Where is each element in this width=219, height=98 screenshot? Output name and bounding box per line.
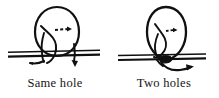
caption-same-hole: Same hole — [0, 76, 110, 91]
dashed-arrow-left-head — [67, 27, 72, 32]
dashed-arrow-right-head — [173, 28, 178, 32]
panel-right — [118, 7, 206, 70]
band-left-top-edge — [8, 50, 100, 52]
dashed-arrow-left — [55, 27, 72, 32]
dashed-arrow-right — [166, 28, 178, 32]
figure-container: Same hole Two holes — [0, 0, 219, 98]
caption-two-holes: Two holes — [109, 76, 219, 91]
loop-inner-strand2-left — [42, 33, 44, 62]
dashed-arrow-left-shaft — [55, 29, 68, 30]
panel-left — [8, 7, 100, 67]
loop-outline-right — [147, 7, 186, 60]
loop-right-strand-tip-left — [72, 60, 79, 67]
solid-arrow-right-head — [186, 64, 194, 70]
dashed-arrow-right-shaft — [166, 30, 174, 31]
loop-right-strand-left — [74, 44, 75, 61]
